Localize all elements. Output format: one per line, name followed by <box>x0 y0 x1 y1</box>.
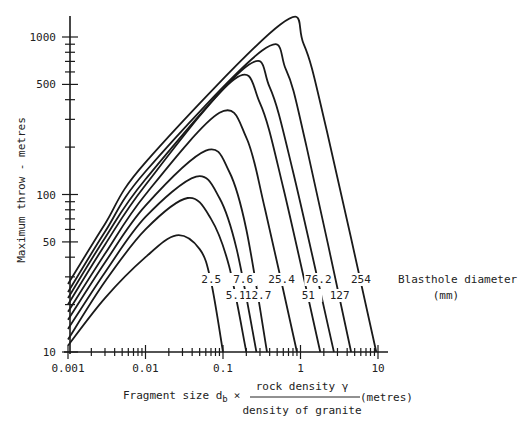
y-tick-label: 500 <box>36 78 56 91</box>
svg-text:(metres): (metres) <box>360 391 413 404</box>
y-tick-label: 10 <box>43 346 56 359</box>
x-tick-label: 0.01 <box>132 362 159 375</box>
series-label: 25.4 <box>268 273 295 286</box>
chart: 0.0010.010.111010501005001000 2.55.17.61… <box>0 0 530 431</box>
legend-unit: (mm) <box>433 289 460 302</box>
series-label: 5.1 <box>226 289 246 302</box>
x-axis-label: Fragment size db× rock density γ density… <box>123 380 413 417</box>
series-label: 51 <box>302 289 315 302</box>
x-tick-label: 10 <box>371 362 384 375</box>
svg-text:rock density γ: rock density γ <box>256 380 349 393</box>
y-tick-label: 50 <box>43 236 56 249</box>
svg-text:density of granite: density of granite <box>242 404 361 417</box>
legend-title: Blasthole diameter <box>398 273 518 286</box>
series-curve <box>68 61 334 352</box>
y-tick-label: 100 <box>36 189 56 202</box>
tick-labels: 0.0010.010.111010501005001000 <box>30 31 385 375</box>
series-label: 254 <box>351 273 371 286</box>
series-curve <box>68 44 351 352</box>
x-tick-label: 1 <box>297 362 304 375</box>
y-tick-label: 1000 <box>30 31 57 44</box>
series-curve <box>68 110 297 352</box>
series-label: 127 <box>330 289 350 302</box>
y-axis-label: Maximum throw - metres <box>15 117 28 263</box>
series-label: 76.2 <box>305 273 332 286</box>
series-label: 2.5 <box>201 273 221 286</box>
x-tick-label: 0.1 <box>213 362 233 375</box>
series-label: 7.6 <box>233 273 253 286</box>
svg-text:Fragment size db×: Fragment size db× <box>123 389 240 404</box>
series-label: 12.7 <box>245 289 272 302</box>
x-tick-label: 0.001 <box>51 362 84 375</box>
series-labels: 2.55.17.612.725.45176.2127254 <box>197 273 375 302</box>
